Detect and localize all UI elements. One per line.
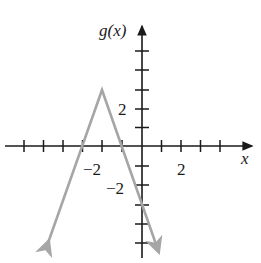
y-tick-label-2: 2 (118, 100, 127, 119)
y-tick-label-neg2: −2 (106, 179, 124, 198)
graph: g(x) x −2 2 2 −2 (0, 0, 261, 263)
x-tick-label-2: 2 (177, 160, 186, 179)
x-axis-label: x (240, 149, 249, 168)
y-axis-label: g(x) (99, 21, 127, 40)
x-tick-label-neg2: −2 (83, 160, 101, 179)
